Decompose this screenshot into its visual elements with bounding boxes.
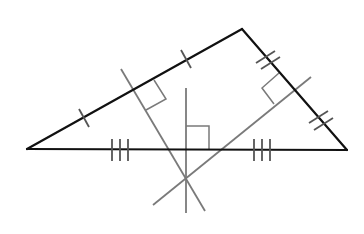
- right-angle-marker-bc: [262, 73, 279, 104]
- right-angle-marker-ac: [186, 126, 209, 149]
- right-angle-marker-ab: [146, 80, 166, 110]
- side-bc: [242, 29, 347, 150]
- bisector-bc: [153, 77, 311, 205]
- triangle-diagram: [0, 0, 364, 234]
- side-ca: [27, 149, 347, 150]
